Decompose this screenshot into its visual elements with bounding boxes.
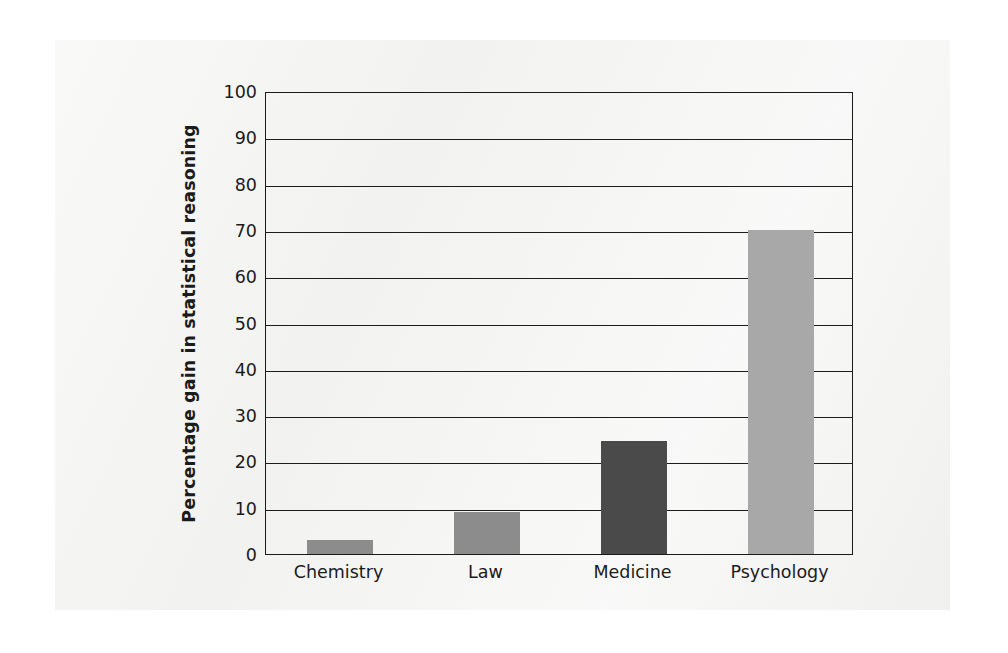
y-tick-label: 30 <box>195 406 257 426</box>
x-tick-label-medicine: Medicine <box>593 562 671 582</box>
x-axis-tick-labels: ChemistryLawMedicinePsychology <box>265 562 853 592</box>
gridline <box>266 139 852 140</box>
bar-medicine <box>601 441 667 554</box>
x-tick-label-chemistry: Chemistry <box>294 562 384 582</box>
x-tick-label-psychology: Psychology <box>730 562 828 582</box>
bar-law <box>454 512 520 554</box>
y-tick-label: 100 <box>195 82 257 102</box>
y-tick-label: 20 <box>195 452 257 472</box>
bar-chart-figure: Percentage gain in statistical reasoning… <box>0 0 1008 653</box>
gridline <box>266 186 852 187</box>
y-tick-label: 40 <box>195 360 257 380</box>
y-tick-label: 60 <box>195 267 257 287</box>
y-tick-label: 50 <box>195 314 257 334</box>
bar-psychology <box>748 230 814 554</box>
y-tick-label: 90 <box>195 128 257 148</box>
x-tick-label-law: Law <box>468 562 503 582</box>
y-tick-label: 10 <box>195 499 257 519</box>
y-tick-label: 80 <box>195 175 257 195</box>
plot-area <box>265 92 853 555</box>
y-tick-label: 0 <box>195 545 257 565</box>
y-tick-label: 70 <box>195 221 257 241</box>
bar-chemistry <box>307 540 373 554</box>
y-axis-tick-labels: 0102030405060708090100 <box>195 92 257 555</box>
